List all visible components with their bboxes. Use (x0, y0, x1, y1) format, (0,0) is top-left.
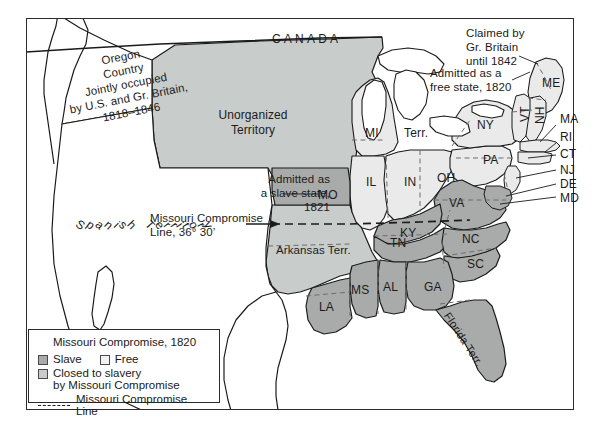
missouri-compromise-map: CANADA Unorganized Territory Oregon Coun… (0, 0, 600, 429)
legend-closed-line1: Closed to slavery (53, 367, 141, 379)
annotation-admitted-free-state: Admitted as a free state, 1820 (430, 66, 526, 94)
label-state-AL: AL (383, 280, 398, 295)
label-state-GA: GA (424, 280, 442, 295)
label-state-ME: ME (542, 76, 560, 91)
free-state-line-2: free state, 1820 (430, 81, 512, 93)
mcline-line-2: Line, 36° 30’ (150, 226, 215, 238)
legend-row-closed: Closed to slavery by Missouri Compromise (38, 367, 211, 391)
label-unorganized-territory: Unorganized Territory (203, 108, 303, 137)
region-illinois (350, 156, 390, 230)
label-state-NY: NY (477, 118, 494, 133)
legend-closed-line2: by Missouri Compromise (53, 379, 180, 391)
label-state-IL: IL (366, 175, 376, 190)
slave-state-line-3: 1821 (304, 201, 330, 213)
map-legend: Missouri Compromise, 1820 Slave Free Clo… (28, 329, 220, 403)
lake-huron (394, 70, 428, 120)
legend-label-compromise-line: Missouri Compromise Line (76, 393, 211, 417)
claimed-line-2: Gr. Britain (466, 41, 518, 53)
claimed-line-1: Claimed by (466, 27, 525, 39)
legend-dash-line-icon (38, 405, 70, 406)
label-state-LA: LA (319, 300, 334, 315)
legend-row-compromise-line: Missouri Compromise Line (38, 393, 211, 417)
label-unorganized-line1: Unorganized (218, 108, 287, 122)
label-state-OH: OH (437, 171, 455, 186)
annotation-claimed-by-britain: Claimed by Gr. Britain until 1842 (466, 26, 558, 68)
label-michigan-territory-word: Terr. (404, 126, 428, 141)
label-state-RI: RI (560, 130, 572, 145)
slave-state-line-1: Admitted as (268, 173, 330, 185)
label-state-TN: TN (390, 236, 406, 251)
label-state-VA: VA (449, 196, 465, 211)
legend-label-closed: Closed to slavery by Missouri Compromise (53, 367, 180, 391)
label-state-NJ: NJ (560, 163, 575, 178)
legend-swatch-free (100, 355, 110, 365)
label-state-PA: PA (483, 153, 499, 168)
label-state-MD: MD (560, 191, 579, 206)
label-state-MS: MS (351, 283, 369, 298)
label-arkansas-territory: Arkansas Terr. (276, 243, 351, 257)
legend-row-slave-free: Slave Free (38, 353, 211, 365)
legend-label-slave: Slave (53, 353, 82, 365)
label-state-SC: SC (467, 257, 484, 272)
legend-label-free: Free (115, 353, 139, 365)
label-canada: CANADA (272, 32, 341, 47)
label-unorganized-line2: Territory (231, 123, 275, 137)
mcline-line-1: Missouri Compromise (150, 212, 263, 224)
region-connecticut-rhodeisland (518, 152, 552, 164)
annotation-missouri-compromise-line: Missouri Compromise Line, 36° 30’ (150, 211, 276, 239)
label-state-IN: IN (404, 175, 416, 190)
legend-title: Missouri Compromise, 1820 (38, 336, 211, 348)
label-state-CT: CT (560, 147, 576, 162)
label-state-NH: NH (533, 106, 548, 124)
mexico-gulf-coastline (276, 292, 288, 420)
free-state-line-1: Admitted as a (430, 67, 502, 79)
label-state-MO: MO (318, 188, 338, 203)
label-state-MI: MI (365, 126, 379, 141)
label-state-NC: NC (462, 232, 480, 247)
leader-nj (516, 170, 556, 178)
label-state-MA: MA (560, 112, 578, 127)
label-state-DE: DE (560, 177, 577, 192)
pacific-coastline (44, 14, 58, 164)
legend-swatch-slave (38, 355, 48, 365)
label-state-VT: VT (518, 106, 533, 122)
legend-swatch-closed (38, 369, 48, 379)
